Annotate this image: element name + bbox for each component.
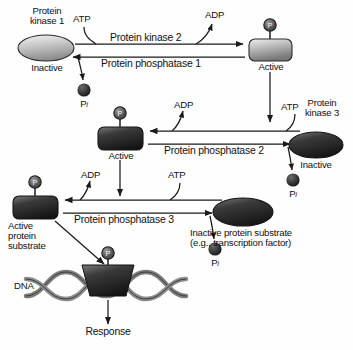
pi-circle-tier1 xyxy=(77,83,90,96)
label-adp-tier1: ADP xyxy=(205,10,224,20)
label-kinase1-name: Proteinkinase 1 xyxy=(16,6,78,26)
node-kinase1-active: P xyxy=(249,19,292,61)
label-kinase3-name: Proteinkinase 3 xyxy=(291,98,353,118)
node-substrate-inactive xyxy=(213,198,273,226)
label-pi-tier2: Pi xyxy=(279,189,307,199)
label-adp-tier2: ADP xyxy=(174,100,193,110)
node-kinase3-inactive xyxy=(289,132,343,158)
svg-text:P: P xyxy=(118,109,123,118)
label-enzyme-phosphatase3: Protein phosphatase 3 xyxy=(74,215,174,226)
label-substrate-inactive: Inactive protein substrate(e.g., transcr… xyxy=(190,228,292,248)
label-enzyme-phosphatase2: Protein phosphatase 2 xyxy=(164,146,264,157)
label-kinase3-state: Inactive xyxy=(289,160,343,170)
curve-atp-tier3 xyxy=(170,183,180,200)
label-pi-tier1: Pi xyxy=(70,99,98,109)
label-substrate-active: Activeproteinsubstrate xyxy=(8,221,46,251)
label-pi-tier3: Pi xyxy=(201,258,229,268)
svg-text:P: P xyxy=(106,249,111,258)
curve-adp-tier3 xyxy=(80,181,90,200)
label-response: Response xyxy=(76,327,140,338)
label-kinase1-state: Inactive xyxy=(16,63,78,73)
node-kinase2-active: P xyxy=(98,107,143,150)
arrow-substrate-to-dna xyxy=(55,221,104,264)
label-atp-tier3: ATP xyxy=(168,170,185,180)
label-atp-tier1: ATP xyxy=(73,14,90,24)
curve-atp-tier1 xyxy=(84,27,96,44)
label-enzyme-kinase2: Protein kinase 2 xyxy=(110,33,181,44)
label-kinase2-state: Active xyxy=(100,151,142,161)
svg-text:P: P xyxy=(268,21,273,30)
svg-text:P: P xyxy=(33,178,38,187)
label-enzyme-phosphatase1: Protein phosphatase 1 xyxy=(101,59,201,70)
label-adp-tier3: ADP xyxy=(81,170,100,180)
label-dna: DNA xyxy=(14,281,34,291)
node-kinase1-inactive xyxy=(18,35,74,61)
node-substrate-active: P xyxy=(13,176,58,219)
label-kinase1-active-state: Active xyxy=(251,62,291,72)
curve-adp-tier2 xyxy=(172,111,183,131)
pi-circle-tier2 xyxy=(286,173,299,186)
dna-bound-protein: P xyxy=(82,247,134,296)
curve-adp-tier1 xyxy=(196,24,212,44)
cascade-diagram: P P P xyxy=(0,0,353,350)
curve-pi-tier1 xyxy=(78,57,83,80)
